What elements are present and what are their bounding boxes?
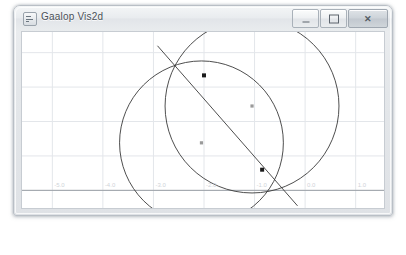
tick-label-layer: -5.0-4.0-3.0-2.0-1.00.01.0 bbox=[54, 182, 366, 188]
plot-canvas[interactable]: -5.0-4.0-3.0-2.0-1.00.01.0 bbox=[22, 32, 384, 208]
intersection-upper[interactable] bbox=[202, 73, 206, 77]
close-icon: ✕ bbox=[364, 14, 372, 23]
x-tick-label: -3.0 bbox=[155, 182, 166, 188]
plot-svg: -5.0-4.0-3.0-2.0-1.00.01.0 bbox=[22, 32, 384, 208]
x-tick-label: 1.0 bbox=[358, 182, 367, 188]
x-tick-label: -5.0 bbox=[54, 182, 65, 188]
x-tick-label: -4.0 bbox=[105, 182, 116, 188]
minimize-button[interactable] bbox=[292, 9, 319, 28]
close-button[interactable]: ✕ bbox=[348, 9, 388, 28]
window-controls: ✕ bbox=[291, 9, 388, 28]
x-tick-label: -2.0 bbox=[206, 182, 217, 188]
title-bar[interactable]: Gaalop Vis2d ✕ bbox=[14, 6, 392, 31]
grid-layer bbox=[22, 32, 384, 208]
application-window: Gaalop Vis2d ✕ -5.0-4.0- bbox=[13, 5, 393, 216]
center-small[interactable] bbox=[200, 141, 203, 144]
geometry-layer bbox=[120, 32, 339, 208]
window-title: Gaalop Vis2d bbox=[41, 11, 103, 22]
screen: Gaalop Vis2d ✕ -5.0-4.0- bbox=[0, 0, 406, 255]
client-area: -5.0-4.0-3.0-2.0-1.00.01.0 bbox=[21, 31, 385, 209]
x-tick-label: -1.0 bbox=[257, 182, 268, 188]
app-icon bbox=[23, 12, 37, 26]
center-large[interactable] bbox=[250, 104, 253, 107]
intersection-lower[interactable] bbox=[260, 168, 264, 172]
maximize-icon bbox=[329, 14, 339, 23]
circle-large[interactable] bbox=[165, 32, 339, 193]
maximize-button[interactable] bbox=[320, 9, 347, 28]
x-tick-label: 0.0 bbox=[307, 182, 316, 188]
intersection-line[interactable] bbox=[157, 46, 297, 206]
minimize-icon bbox=[302, 21, 309, 22]
